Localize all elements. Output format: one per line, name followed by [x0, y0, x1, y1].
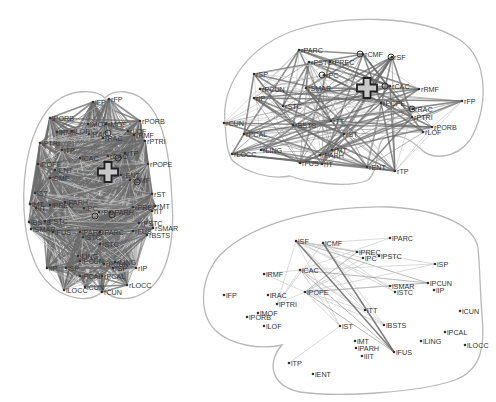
region-node-lst: lST	[339, 322, 354, 331]
node-dot-icon	[147, 163, 150, 166]
region-label: rTP	[397, 167, 409, 176]
region-label: rSTC	[102, 240, 119, 249]
region-node-rling: rLING	[260, 146, 283, 155]
region-node-lfp: lFP	[223, 291, 237, 300]
node-dot-icon	[102, 137, 105, 140]
region-node-rpcal: rPCAL	[243, 130, 267, 139]
region-label: lFUS	[55, 228, 71, 237]
region-node-lporb: lPORB	[246, 313, 271, 322]
region-node-rparc: rPARC	[99, 228, 124, 237]
region-node-lbsts: lBSTS	[383, 321, 407, 330]
node-dot-icon	[138, 222, 141, 225]
region-label: rST	[346, 130, 358, 139]
region-label: lPCAL	[82, 272, 102, 281]
region-label: rRAC	[105, 134, 123, 143]
region-label: rPTRI	[414, 113, 433, 122]
region-label: lPARC	[392, 234, 413, 243]
node-dot-icon	[144, 140, 147, 143]
node-dot-icon	[299, 162, 302, 165]
node-dot-icon	[259, 88, 262, 91]
node-dot-icon	[394, 170, 397, 173]
region-label: rSP	[256, 70, 268, 79]
node-dot-icon	[152, 227, 155, 230]
node-dot-icon	[79, 231, 82, 234]
region-node-rst: rST	[343, 130, 358, 139]
node-dot-icon	[79, 260, 82, 263]
region-label: lSP	[68, 264, 79, 273]
region-node-rporb: rPORB	[139, 117, 165, 126]
node-dot-icon	[127, 130, 130, 133]
node-dot-icon	[107, 155, 110, 158]
node-dot-icon	[231, 153, 234, 156]
region-label: rSF	[394, 53, 406, 62]
region-node-lcac: lCAC	[299, 266, 319, 275]
region-node-rbsts: rBSTS	[146, 231, 171, 240]
region-label: rPCUN	[262, 85, 285, 94]
node-dot-icon	[61, 149, 64, 152]
node-dot-icon	[364, 309, 367, 312]
region-label: rTP	[127, 149, 139, 158]
node-dot-icon	[420, 340, 423, 343]
region-label: lPCAL	[447, 328, 467, 337]
node-dot-icon	[52, 231, 55, 234]
region-label: rPCAL	[246, 130, 267, 139]
node-dot-icon	[39, 142, 42, 145]
region-label: lBSTS	[386, 321, 407, 330]
region-label: lLOF	[266, 322, 282, 331]
region-node-rpope: rPOPE	[147, 160, 173, 169]
node-dot-icon	[393, 351, 396, 354]
region-label: lFP	[226, 291, 237, 300]
node-dot-icon	[63, 289, 66, 292]
region-label: rCMF	[365, 50, 384, 59]
region-label: lPTRI	[42, 139, 60, 148]
node-dot-icon	[133, 134, 136, 137]
node-dot-icon	[223, 122, 226, 125]
region-label: lIIT	[364, 352, 375, 361]
region-label: rPARH	[322, 151, 344, 160]
node-dot-icon	[246, 316, 249, 319]
region-label: rCAC	[392, 82, 410, 91]
region-label: lLING	[423, 337, 442, 346]
node-dot-icon	[319, 154, 322, 157]
node-dot-icon	[99, 243, 102, 246]
region-node-rlocc: rLOCC	[231, 150, 257, 159]
node-dot-icon	[260, 149, 263, 152]
node-dot-icon	[253, 97, 256, 100]
region-node-rptri: rPTRI	[411, 113, 433, 122]
region-node-rbsts: rBSTS	[292, 121, 317, 130]
node-dot-icon	[101, 291, 104, 294]
node-dot-icon	[305, 87, 308, 90]
node-dot-icon	[412, 108, 415, 111]
node-dot-icon	[464, 344, 467, 347]
region-label: rLOCC	[129, 281, 151, 290]
node-dot-icon	[126, 284, 129, 287]
node-dot-icon	[146, 234, 149, 237]
left-lateral-brain-outline	[204, 207, 483, 395]
node-dot-icon	[339, 325, 342, 328]
region-label: rFP	[111, 95, 123, 104]
region-node-rpope: rPOPE	[380, 99, 406, 108]
region-label: lPCUN	[82, 257, 104, 266]
region-node-lcun: lCUN	[84, 283, 104, 292]
region-label: lENT	[315, 370, 332, 379]
region-label: rPOPE	[150, 160, 173, 169]
region-label: lPTRI	[279, 300, 297, 309]
node-dot-icon	[35, 207, 38, 210]
region-label: rCUN	[104, 288, 122, 297]
region-label: lCAC	[82, 154, 99, 163]
region-node-lstc: lSTC	[82, 233, 101, 242]
node-dot-icon	[105, 123, 108, 126]
region-label: rBSTS	[149, 231, 170, 240]
region-label: rCUN	[226, 119, 244, 128]
node-dot-icon	[288, 362, 291, 365]
region-node-lcun: lCUN	[459, 307, 479, 316]
node-dot-icon	[434, 263, 437, 266]
node-dot-icon	[356, 251, 359, 254]
region-label: rIT	[154, 207, 163, 216]
node-dot-icon	[355, 347, 358, 350]
region-label: lSF	[298, 237, 309, 246]
region-label: lSTC	[397, 288, 413, 297]
region-node-rlocc: rLOCC	[126, 281, 152, 290]
node-dot-icon	[49, 204, 52, 207]
region-node-lfus: lFUS	[393, 348, 412, 357]
